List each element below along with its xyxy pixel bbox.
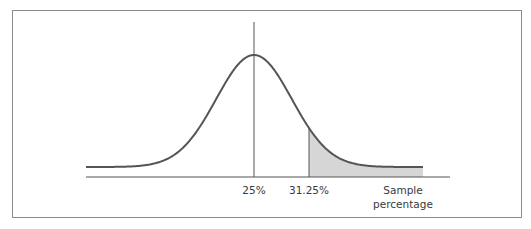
normal-distribution-chart: 25% 31.25% Sample percentage: [0, 0, 531, 229]
tick-label-cutoff: 31.25%: [289, 184, 329, 196]
tick-label-mean: 25%: [242, 184, 265, 196]
shaded-tail-area: [309, 128, 423, 177]
x-axis-label-line-1: Sample: [383, 184, 422, 196]
x-axis-label-line-2: percentage: [373, 198, 433, 210]
